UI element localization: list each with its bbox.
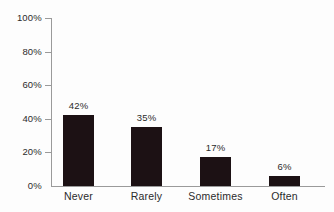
- y-axis-line: [51, 18, 52, 186]
- y-axis-label-0: 0%: [28, 181, 42, 191]
- y-axis-label-60: 60%: [22, 80, 42, 90]
- bar-value-often: 6%: [269, 162, 300, 172]
- y-axis-label-80: 80%: [22, 47, 42, 57]
- y-axis-tick-40: [45, 119, 51, 120]
- x-axis-label-rarely: Rarely: [111, 190, 182, 202]
- y-axis-tick-60: [45, 85, 51, 86]
- y-axis-tick-80: [45, 52, 51, 53]
- bar-often[interactable]: [269, 176, 300, 186]
- bar-never[interactable]: [63, 115, 94, 186]
- bar-sometimes[interactable]: [200, 157, 231, 186]
- x-axis-label-sometimes: Sometimes: [180, 190, 251, 202]
- x-axis-line: [51, 186, 325, 187]
- bar-value-rarely: 35%: [131, 113, 162, 123]
- y-axis-label-100: 100%: [17, 13, 42, 23]
- y-axis-tick-100: [45, 18, 51, 19]
- y-axis-tick-20: [45, 152, 51, 153]
- bar-chart: 100% 80% 60% 40% 20% 0% 42% 35% 17% 6% N…: [0, 0, 334, 212]
- x-axis-label-never: Never: [43, 190, 114, 202]
- x-axis-label-often: Often: [249, 190, 320, 202]
- bar-rarely[interactable]: [131, 127, 162, 186]
- y-axis-label-40: 40%: [22, 114, 42, 124]
- bar-value-sometimes: 17%: [200, 143, 231, 153]
- bar-value-never: 42%: [63, 101, 94, 111]
- y-axis-label-20: 20%: [22, 147, 42, 157]
